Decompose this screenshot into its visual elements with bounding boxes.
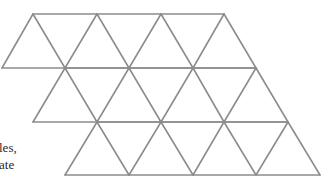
grid-diagonal-line xyxy=(97,14,129,68)
grid-diagonal-line xyxy=(224,14,256,68)
grid-diagonal-line xyxy=(33,14,65,68)
grid-diagonal-line xyxy=(256,122,288,175)
grid-diagonal-line xyxy=(193,68,224,122)
grid-diagonal-line xyxy=(97,122,129,175)
grid-diagonal-line xyxy=(161,122,193,175)
grid-diagonal-line xyxy=(193,122,224,175)
caption-fragment-line-1: les, xyxy=(0,141,17,154)
grid-diagonal-line xyxy=(129,14,161,68)
triangular-grid-diagram xyxy=(0,0,323,180)
grid-diagonal-line xyxy=(129,122,161,175)
grid-diagonal-line xyxy=(97,68,129,122)
grid-diagonal-line xyxy=(129,68,161,122)
grid-diagonal-line xyxy=(65,68,97,122)
grid-diagonal-line xyxy=(224,122,256,175)
caption-fragment-line-2: ate xyxy=(0,158,14,171)
grid-diagonal-line xyxy=(65,14,97,68)
grid-diagonal-line xyxy=(65,122,97,175)
grid-diagonal-line xyxy=(288,122,320,175)
grid-diagonal-line xyxy=(193,14,224,68)
grid-diagonal-line xyxy=(256,68,288,122)
grid-diagonal-line xyxy=(2,14,33,68)
grid-diagonal-line xyxy=(33,68,65,122)
grid-diagonal-line xyxy=(161,68,193,122)
grid-diagonal-line xyxy=(161,14,193,68)
grid-diagonal-line xyxy=(224,68,256,122)
